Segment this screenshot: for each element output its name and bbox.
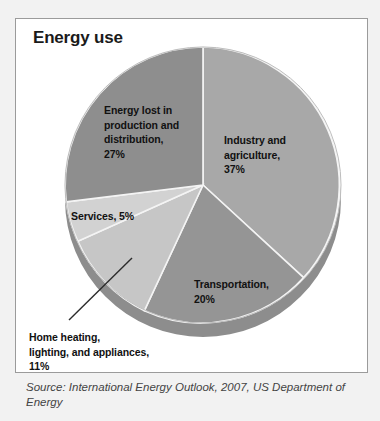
pie-label-energy-lost: Energy lost in production and distributi…	[104, 103, 216, 161]
pie-label-energy-lost-line2: production and	[104, 118, 216, 133]
pie-label-energy-lost-value: 27%	[104, 147, 216, 162]
pie-label-services: Services, 5%	[71, 209, 181, 224]
pie-label-energy-lost-line3: distribution,	[104, 132, 216, 147]
pie-label-services-line1: Services, 5%	[71, 209, 181, 224]
pie-label-home-heating-value: 11%	[29, 359, 204, 373]
pie-label-industry-line1: Industry and	[224, 133, 328, 148]
pie-label-industry: Industry and agriculture, 37%	[224, 133, 328, 177]
pie-chart: Energy lost in production and distributi…	[16, 19, 368, 373]
pie-label-industry-line2: agriculture,	[224, 148, 328, 163]
pie-label-energy-lost-line1: Energy lost in	[104, 103, 216, 118]
pie-label-home-heating-line2: lighting, and appliances,	[29, 345, 204, 360]
page-background-strip	[0, 0, 380, 18]
pie-label-home-heating: Home heating, lighting, and appliances, …	[29, 330, 204, 373]
pie-label-home-heating-line1: Home heating,	[29, 330, 204, 345]
pie-label-industry-value: 37%	[224, 162, 328, 177]
pie-label-transportation-value: 20%	[194, 292, 304, 307]
chart-card: Energy use	[15, 18, 368, 373]
pie-label-transportation-line1: Transportation,	[194, 277, 304, 292]
pie-label-transportation: Transportation, 20%	[194, 277, 304, 306]
source-note: Source: International Energy Outlook, 20…	[26, 380, 366, 410]
pie-chart-graphic	[15, 18, 368, 373]
